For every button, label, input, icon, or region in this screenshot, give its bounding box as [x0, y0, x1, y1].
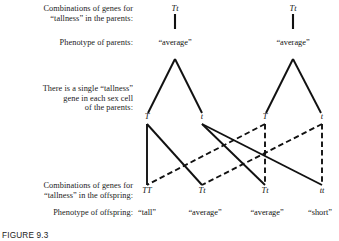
offspring-1-phenotype: “tall” [138, 208, 156, 217]
parent2-genotype: Tt [290, 4, 297, 13]
offspring-2-genotype: Tt [199, 186, 206, 195]
line-T2-to-TT [147, 124, 265, 185]
parent1-fork-left [148, 59, 175, 113]
gamete-1: T [145, 112, 150, 121]
cross-lines-diagram [0, 0, 339, 241]
gamete-3: T [263, 112, 268, 121]
parent2-fork-right [293, 59, 321, 113]
gamete-2: t [201, 112, 203, 121]
parent1-genotype: Tt [172, 4, 179, 13]
offspring-3-genotype: Tt [262, 186, 269, 195]
row-label-gametes: There is a single “tallness” gene in eac… [0, 84, 133, 113]
row-label-offspring-genotypes: Combinations of genes for “tallness” in … [0, 181, 133, 200]
line-T1-to-Tt2 [147, 124, 202, 185]
row-label-parent-genotypes: Combinations of genes for “tallness” in … [0, 4, 133, 23]
row-label-offspring-phenotype: Phenotype of offspring: [0, 208, 133, 218]
parent1-phenotype: “average” [158, 38, 191, 47]
offspring-4-genotype: tt [320, 186, 325, 195]
parent2-fork-left [266, 59, 293, 113]
line-t1-to-Tt3 [202, 124, 265, 185]
offspring-1-genotype: TT [142, 186, 151, 195]
parent1-fork-right [175, 59, 202, 113]
gamete-4: t [321, 112, 323, 121]
offspring-3-phenotype: “average” [250, 208, 283, 217]
row-label-parent-phenotype: Phenotype of parents: [0, 38, 133, 48]
offspring-4-phenotype: “short” [308, 208, 332, 217]
figure-caption: FIGURE 9.3 [2, 231, 49, 240]
genetics-punnett-cross-figure: Combinations of genes for “tallness” in … [0, 0, 339, 241]
offspring-2-phenotype: “average” [188, 208, 221, 217]
parent2-phenotype: “average” [276, 38, 309, 47]
